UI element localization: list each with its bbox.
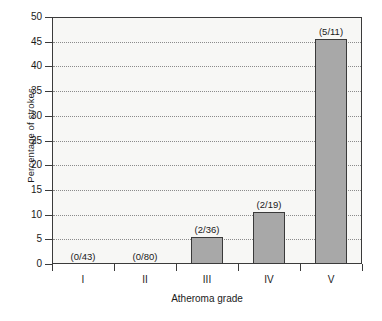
x-axis-tick — [238, 264, 239, 271]
bar — [315, 39, 347, 264]
y-axis-tick-label: 20 — [2, 160, 42, 170]
y-axis-tick — [45, 17, 52, 18]
x-axis-tick — [114, 264, 115, 271]
bar-value-label: (5/11) — [291, 26, 371, 37]
x-axis-tick-label: III — [176, 274, 238, 285]
y-axis-tick — [45, 141, 52, 142]
y-axis-tick-label: 30 — [2, 111, 42, 121]
y-axis-tick-label: 0 — [2, 259, 42, 269]
x-axis-tick-label: II — [114, 274, 176, 285]
x-axis-tick — [362, 264, 363, 271]
y-axis-tick — [45, 116, 52, 117]
bar — [253, 212, 285, 264]
y-axis-tick — [45, 264, 52, 265]
bar-value-label: (2/19) — [229, 199, 309, 210]
y-axis-tick — [45, 190, 52, 191]
bar — [191, 237, 223, 264]
y-axis-tick — [45, 42, 52, 43]
x-axis-tick — [52, 264, 53, 271]
x-axis-tick-label: I — [52, 274, 114, 285]
x-axis-tick-label: IV — [238, 274, 300, 285]
y-axis-tick-label: 25 — [2, 136, 42, 146]
x-axis-title: Atheroma grade — [52, 293, 362, 304]
y-axis-tick-label: 10 — [2, 210, 42, 220]
x-axis-tick — [176, 264, 177, 271]
y-axis-tick — [45, 66, 52, 67]
y-axis-tick — [45, 239, 52, 240]
y-axis-tick — [45, 91, 52, 92]
y-axis-tick-label: 45 — [2, 37, 42, 47]
y-axis-tick-label: 15 — [2, 185, 42, 195]
y-axis-tick-label: 40 — [2, 61, 42, 71]
y-axis-tick — [45, 215, 52, 216]
y-axis-tick-label: 5 — [2, 234, 42, 244]
y-axis-tick-label: 35 — [2, 86, 42, 96]
y-axis-tick-label: 50 — [2, 12, 42, 22]
bar-value-label: (0/80) — [105, 251, 185, 262]
bar-value-label: (2/36) — [167, 224, 247, 235]
x-axis-tick — [300, 264, 301, 271]
bar-chart-figure: Percentage of strokes 051015202530354045… — [0, 0, 382, 321]
y-axis-tick — [45, 165, 52, 166]
x-axis-tick-label: V — [300, 274, 362, 285]
